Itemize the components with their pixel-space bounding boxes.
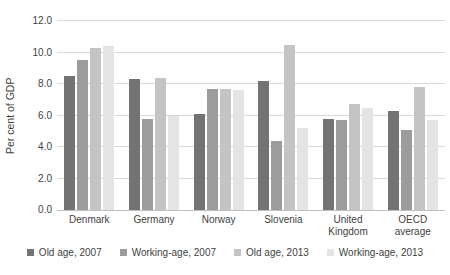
legend-swatch-icon bbox=[120, 249, 127, 256]
legend-swatch-icon bbox=[234, 249, 241, 256]
x-category-label: Slovenia bbox=[251, 214, 316, 237]
bar bbox=[258, 81, 269, 210]
bar bbox=[349, 104, 360, 210]
y-axis: 0.02.04.06.08.010.012.0 bbox=[0, 21, 52, 210]
y-tick-label: 12.0 bbox=[33, 16, 52, 26]
grouped-bar-chart: Per cent of GDP 0.02.04.06.08.010.012.0 … bbox=[0, 0, 450, 275]
legend-label: Working-age, 2007 bbox=[132, 247, 216, 258]
bar-group bbox=[316, 21, 381, 210]
x-category-label: United Kingdom bbox=[316, 214, 381, 237]
bar bbox=[142, 119, 153, 210]
bar bbox=[103, 46, 114, 210]
bar bbox=[362, 108, 373, 210]
bar bbox=[77, 60, 88, 210]
bar bbox=[233, 90, 244, 210]
y-tick-label: 2.0 bbox=[38, 174, 52, 184]
bar bbox=[336, 120, 347, 210]
bar bbox=[284, 45, 295, 210]
legend-item: Old age, 2007 bbox=[27, 247, 102, 258]
legend: Old age, 2007Working-age, 2007Old age, 2… bbox=[0, 247, 450, 258]
x-category-label: Denmark bbox=[57, 214, 122, 237]
legend-label: Working-age, 2013 bbox=[339, 247, 423, 258]
y-tick-label: 4.0 bbox=[38, 142, 52, 152]
legend-item: Working-age, 2013 bbox=[327, 247, 423, 258]
bar bbox=[90, 48, 101, 210]
bar-group bbox=[186, 21, 251, 210]
x-category-label: Norway bbox=[186, 214, 251, 237]
bar bbox=[168, 116, 179, 211]
plot-area bbox=[57, 21, 445, 211]
bar bbox=[297, 128, 308, 210]
bar bbox=[207, 89, 218, 210]
bar bbox=[220, 89, 231, 210]
bar-group bbox=[380, 21, 445, 210]
bar-group bbox=[251, 21, 316, 210]
bar bbox=[401, 130, 412, 210]
bar bbox=[129, 79, 140, 210]
bar bbox=[323, 119, 334, 210]
legend-swatch-icon bbox=[327, 249, 334, 256]
bar bbox=[155, 78, 166, 210]
bar bbox=[427, 120, 438, 210]
y-tick-label: 6.0 bbox=[38, 111, 52, 121]
bar bbox=[388, 111, 399, 210]
x-category-label: OECD average bbox=[380, 214, 445, 237]
legend-item: Working-age, 2007 bbox=[120, 247, 216, 258]
bar bbox=[64, 76, 75, 210]
y-tick-label: 0.0 bbox=[38, 205, 52, 215]
bar bbox=[414, 87, 425, 210]
legend-swatch-icon bbox=[27, 249, 34, 256]
legend-label: Old age, 2013 bbox=[246, 247, 309, 258]
bar bbox=[271, 141, 282, 210]
y-tick-label: 8.0 bbox=[38, 79, 52, 89]
bar-group bbox=[57, 21, 122, 210]
bar bbox=[194, 114, 205, 210]
bar-group bbox=[122, 21, 187, 210]
y-tick-label: 10.0 bbox=[33, 48, 52, 58]
x-category-label: Germany bbox=[122, 214, 187, 237]
x-axis: DenmarkGermanyNorwaySloveniaUnited Kingd… bbox=[57, 214, 445, 237]
legend-item: Old age, 2013 bbox=[234, 247, 309, 258]
legend-label: Old age, 2007 bbox=[39, 247, 102, 258]
